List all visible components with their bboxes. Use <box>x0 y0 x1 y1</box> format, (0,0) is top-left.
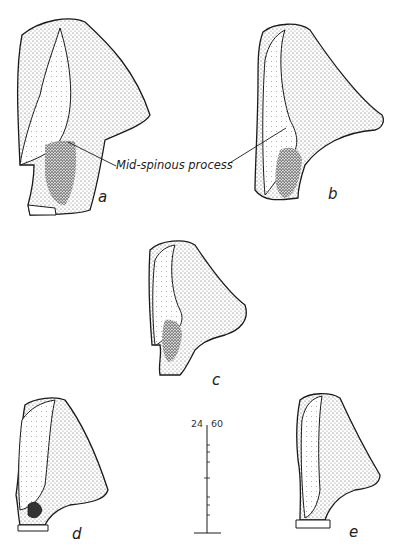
specimen-c-bone <box>149 241 246 375</box>
specimen-b-bone <box>255 24 383 200</box>
specimen-a-bone <box>18 19 150 215</box>
specimen-label-d: d <box>72 525 82 543</box>
specimen-label-a: a <box>98 188 107 206</box>
specimen-d-bone <box>16 398 108 531</box>
specimen-label-e: e <box>349 523 358 541</box>
scale-bar-label-right: 60 <box>211 418 223 429</box>
specimen-label-b: b <box>328 185 338 203</box>
specimen-e-bone <box>296 394 380 528</box>
callout-mid-spinous-process: Mid-spinous process <box>116 158 233 172</box>
specimen-label-c: c <box>212 371 220 389</box>
scale-bar-label-left: 24 <box>191 418 203 429</box>
scale-bar <box>194 425 221 533</box>
scientific-illustration <box>0 0 402 551</box>
